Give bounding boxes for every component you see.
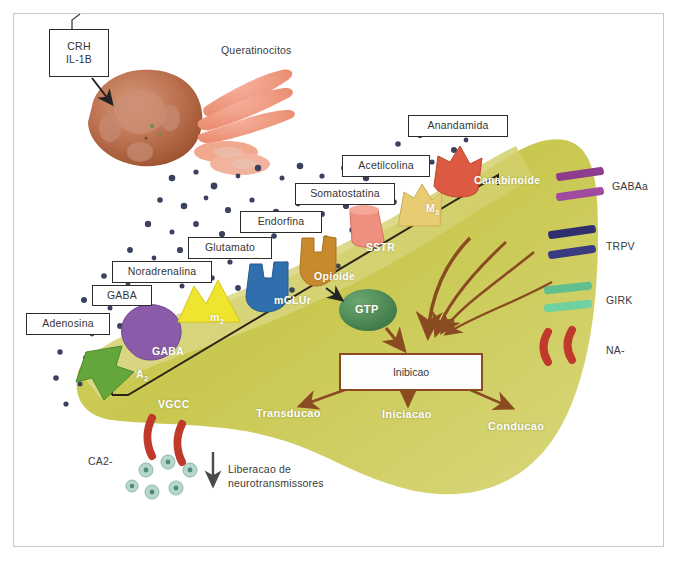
- receptor-label-m2-sub: 2: [220, 317, 224, 326]
- stimulus-to-macrophage-arrow: [92, 78, 112, 104]
- receptor-label-A2-text: A: [136, 368, 144, 380]
- release-line-2: neurotransmissores: [228, 476, 324, 490]
- release-line-1: Liberacao de: [228, 462, 324, 476]
- mediator-box-somatostatina: Somatostatina: [295, 183, 395, 205]
- receptor-label-m2-text: m: [210, 311, 220, 323]
- mediator-box-anandamida: Anandamida: [408, 115, 508, 137]
- vgcc-label: VGCC: [158, 398, 190, 410]
- receptor-label-A2: A2: [136, 368, 148, 383]
- stimulus-box: CRH IL-1B: [49, 29, 109, 77]
- stimulus-line-1: CRH: [67, 40, 90, 53]
- gtp-to-inhibition-arrow: [386, 328, 404, 350]
- channel-label-GIRK: GIRK: [606, 294, 632, 306]
- mediator-box-gaba: GABA: [92, 285, 152, 306]
- channel-label-NA: NA-: [606, 344, 625, 356]
- receptor-label-GABA: GABA: [152, 345, 184, 357]
- inhibition-box: Inibicao: [339, 353, 483, 391]
- receptor-label-mGLUr: mGLUr: [274, 294, 311, 306]
- mediator-box-adenosina: Adenosina: [26, 313, 110, 335]
- receptor-label-SSTR: SSTR: [366, 241, 395, 253]
- mediator-box-glutamato: Glutamato: [188, 237, 272, 259]
- figure-canvas: CRH IL-1B Queratinocitos Adenosina GABA …: [0, 0, 679, 562]
- mediator-box-noradrenalina: Noradrenalina: [112, 261, 212, 283]
- channel-arrow-3: [442, 252, 534, 332]
- channel-label-TRPV: TRPV: [606, 240, 635, 252]
- release-label: Liberacao de neurotransmissores: [228, 462, 324, 490]
- receptor-label-A2-sub: 2: [144, 374, 148, 383]
- keratinocyte-label: Queratinocitos: [221, 44, 292, 56]
- output-label-transducao: Transducao: [256, 407, 321, 419]
- receptor-label-Opioide: Opioide: [314, 270, 355, 282]
- mediator-box-acetilcolina: Acetilcolina: [342, 155, 430, 177]
- membrane-to-gtp-arrow: [326, 288, 342, 300]
- inhibition-to-conducao-arrow: [466, 388, 512, 408]
- output-label-iniciacao: Iniciacao: [382, 408, 432, 420]
- channel-label-GABAa: GABAa: [612, 180, 648, 192]
- stimulus-line-2: IL-1B: [66, 53, 92, 66]
- receptor-label-M3-sub: 3: [435, 208, 439, 217]
- calcium-label: CA2-: [88, 455, 113, 467]
- receptor-label-M3-text: M: [426, 202, 435, 214]
- receptor-label-m2: m2: [210, 311, 224, 326]
- receptor-label-M3: M3: [426, 202, 440, 217]
- mediator-box-endorfina: Endorfina: [240, 211, 322, 233]
- receptor-label-Canabinoide: Canabinoide: [474, 174, 540, 186]
- gtp-label: GTP: [355, 303, 379, 315]
- output-label-conducao: Conducao: [488, 420, 544, 432]
